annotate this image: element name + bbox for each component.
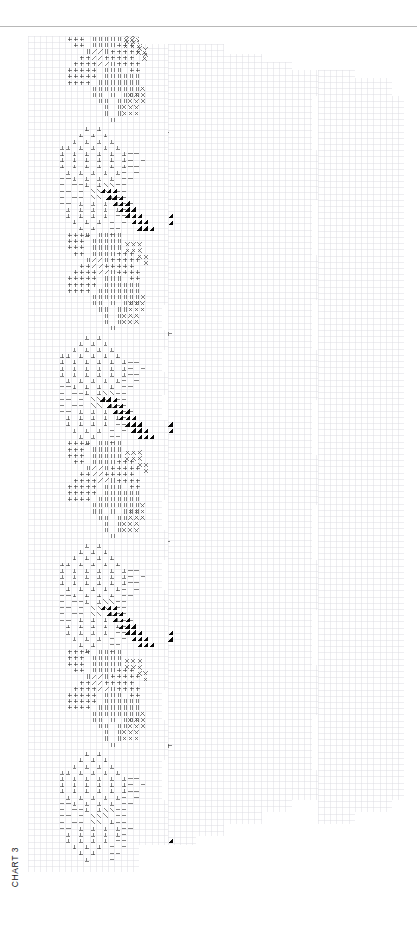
- stitch-chart-canvas: NNNNNNNNNLLNNLLNLLLLLLLLLLLLLLLLLLLLLLLL…: [0, 0, 417, 942]
- panel-left: [28, 25, 176, 872]
- chart-page: CHART 3 NNNNNNNNNLLNNLLNLLLLLLLLLLLLLLLL…: [0, 0, 417, 942]
